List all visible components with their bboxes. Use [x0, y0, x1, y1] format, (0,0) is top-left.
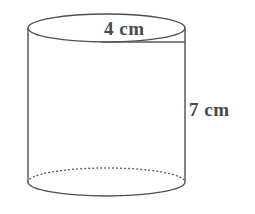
cylinder-bottom-hidden-arc [28, 168, 185, 182]
cylinder-bottom-front-arc [28, 182, 185, 196]
cylinder-figure: 4 cm 7 cm [0, 0, 255, 214]
diameter-label: 4 cm [104, 19, 145, 39]
height-label: 7 cm [189, 100, 230, 120]
